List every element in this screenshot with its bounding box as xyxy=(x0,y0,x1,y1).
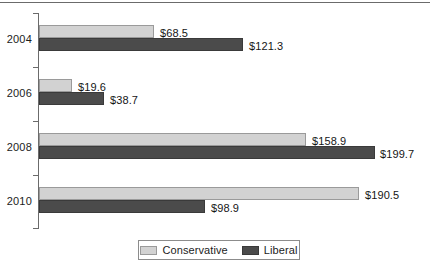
bar-value-liberal-2006: $38.7 xyxy=(110,94,138,106)
bar-conservative-2010[interactable] xyxy=(39,187,359,200)
legend-label-liberal: Liberal xyxy=(264,244,298,256)
bar-liberal-2010[interactable] xyxy=(39,200,205,213)
legend-label-conservative: Conservative xyxy=(162,244,227,256)
plot-area: 2004 $68.5 $121.3 2006 $19.6 $38.7 2008 … xyxy=(0,0,430,232)
axis-bottom-cap xyxy=(33,228,39,229)
bar-value-liberal-2010: $98.9 xyxy=(211,202,239,214)
bar-value-liberal-2004: $121.3 xyxy=(249,40,283,52)
bar-conservative-2008[interactable] xyxy=(39,133,306,146)
axis-tick-1 xyxy=(33,67,38,68)
axis-top-cap xyxy=(33,13,39,14)
axis-tick-3 xyxy=(33,175,38,176)
bar-liberal-2006[interactable] xyxy=(39,92,104,105)
category-label-2004: 2004 xyxy=(0,33,32,45)
legend-entry-conservative[interactable]: Conservative xyxy=(140,244,227,256)
category-label-2010: 2010 xyxy=(0,195,32,207)
category-label-2008: 2008 xyxy=(0,141,32,153)
bar-value-liberal-2008: $199.7 xyxy=(380,148,414,160)
category-label-2006: 2006 xyxy=(0,87,32,99)
conservative-swatch-icon xyxy=(140,246,157,255)
legend-entry-liberal[interactable]: Liberal xyxy=(242,244,298,256)
liberal-swatch-icon xyxy=(242,246,259,255)
chart-legend: Conservative Liberal xyxy=(138,240,300,260)
bar-liberal-2008[interactable] xyxy=(39,146,375,159)
bar-value-conservative-2010: $190.5 xyxy=(365,189,399,201)
bar-conservative-2006[interactable] xyxy=(39,79,72,92)
bar-liberal-2004[interactable] xyxy=(39,38,243,51)
axis-tick-2 xyxy=(33,121,38,122)
bar-conservative-2004[interactable] xyxy=(39,25,154,38)
bar-chart: 2004 $68.5 $121.3 2006 $19.6 $38.7 2008 … xyxy=(0,0,430,270)
